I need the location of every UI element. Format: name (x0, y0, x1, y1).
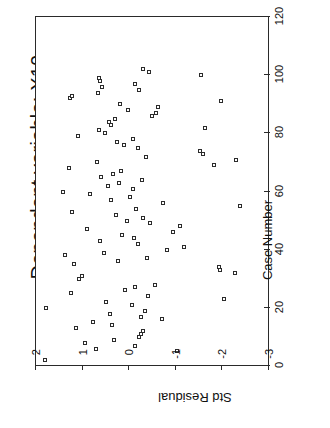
data-point (128, 195, 132, 199)
data-point (182, 245, 186, 249)
data-point (222, 297, 226, 301)
data-point (141, 216, 145, 220)
case-tick-label: 120 (272, 0, 286, 33)
data-point (144, 155, 148, 159)
data-point (131, 187, 135, 191)
case-tick-mark (264, 132, 270, 133)
data-point (107, 120, 111, 124)
data-point (94, 347, 98, 351)
data-point (69, 291, 73, 295)
data-point (119, 169, 123, 173)
data-point (130, 303, 134, 307)
std-residual-axis-title: Std Residual (140, 388, 250, 406)
data-point (70, 94, 74, 98)
data-point (171, 230, 175, 234)
data-point (110, 323, 114, 327)
data-point (76, 134, 80, 138)
data-point (131, 137, 135, 141)
data-point (103, 131, 107, 135)
data-point (120, 233, 124, 237)
data-point (212, 163, 216, 167)
std-residual-axis-line (35, 365, 268, 366)
data-point (238, 204, 242, 208)
data-point (117, 181, 121, 185)
data-point (91, 320, 95, 324)
data-point (146, 294, 150, 298)
data-point (123, 288, 127, 292)
data-point (108, 312, 112, 316)
data-point (132, 236, 136, 240)
data-point (143, 309, 147, 313)
data-point (63, 253, 67, 257)
data-point (122, 143, 126, 147)
data-point (44, 306, 48, 310)
data-point (61, 190, 65, 194)
data-point (161, 201, 165, 205)
data-point (198, 149, 202, 153)
data-point (141, 329, 145, 333)
data-point (106, 184, 110, 188)
data-point (113, 117, 117, 121)
scatter-plot-area (36, 17, 268, 365)
data-point (136, 146, 140, 150)
data-point (148, 221, 152, 225)
case-tick-label: 100 (272, 57, 286, 91)
data-point (74, 326, 78, 330)
data-point (140, 178, 144, 182)
data-point (203, 126, 207, 130)
data-point (145, 256, 149, 260)
data-point (109, 198, 113, 202)
data-point (83, 341, 87, 345)
case-tick-mark (264, 16, 270, 17)
data-point (70, 210, 74, 214)
data-point (116, 259, 120, 263)
case-tick-mark (264, 307, 270, 308)
data-point (43, 358, 47, 362)
residual-tick-label: -2 (215, 349, 229, 371)
data-point (115, 140, 119, 144)
case-tick-label: 20 (272, 290, 286, 324)
data-point (217, 265, 221, 269)
plot-frame (35, 16, 268, 365)
residual-tick-label: -1 (169, 349, 183, 371)
residual-tick-label: 1 (76, 349, 90, 371)
data-point (80, 274, 84, 278)
residual-tick-label: 2 (29, 349, 43, 371)
data-point (156, 105, 160, 109)
data-point (178, 224, 182, 228)
data-point (72, 262, 76, 266)
data-point (139, 315, 143, 319)
data-point (67, 166, 71, 170)
data-point (147, 70, 151, 74)
data-point (199, 73, 203, 77)
data-point (160, 317, 164, 321)
data-point (97, 128, 101, 132)
data-point (98, 239, 102, 243)
data-point (112, 338, 116, 342)
data-point (111, 172, 115, 176)
data-point (133, 344, 137, 348)
data-point (134, 207, 138, 211)
data-point (234, 158, 238, 162)
data-point (154, 111, 158, 115)
data-point (165, 248, 169, 252)
data-point (100, 85, 104, 89)
data-point (95, 160, 99, 164)
data-point (125, 219, 129, 223)
data-point (102, 251, 106, 255)
data-point (141, 67, 145, 71)
residual-tick-label: 0 (122, 349, 136, 371)
data-point (219, 99, 223, 103)
data-point (104, 300, 108, 304)
residual-tick-label: -3 (262, 349, 276, 371)
data-point (96, 91, 100, 95)
data-point (153, 283, 157, 287)
data-point (118, 102, 122, 106)
data-point (133, 285, 137, 289)
data-point (126, 108, 130, 112)
chart-page: Dependent variable: X10 020406080100120 … (0, 0, 330, 428)
data-point (99, 175, 103, 179)
data-point (150, 114, 154, 118)
data-point (137, 88, 141, 92)
data-point (85, 227, 89, 231)
